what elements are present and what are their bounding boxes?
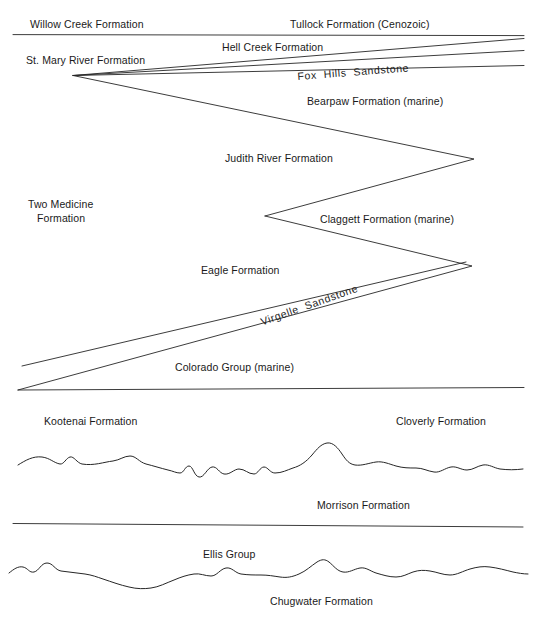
morrison-unconformity-upper bbox=[18, 443, 523, 477]
formation-label-kootenai: Kootenai Formation bbox=[44, 415, 137, 428]
formation-label-two-medicine-1: Two Medicine bbox=[28, 198, 93, 211]
chugwater-unconformity bbox=[9, 560, 528, 589]
formation-label-st-mary-river: St. Mary River Formation bbox=[26, 54, 145, 67]
formation-label-bearpaw: Bearpaw Formation (marine) bbox=[307, 95, 443, 108]
formation-label-eagle: Eagle Formation bbox=[201, 264, 280, 277]
formation-label-cloverly: Cloverly Formation bbox=[396, 415, 486, 428]
virgelle-top-contact bbox=[22, 262, 466, 366]
formation-label-ellis-group: Ellis Group bbox=[203, 548, 255, 561]
contact-lines-layer bbox=[0, 0, 538, 622]
formation-label-chugwater: Chugwater Formation bbox=[270, 595, 373, 608]
formation-label-willow-creek: Willow Creek Formation bbox=[30, 18, 144, 31]
formation-label-morrison: Morrison Formation bbox=[317, 499, 410, 512]
formation-label-two-medicine-2: Formation bbox=[37, 212, 85, 225]
formation-label-claggett: Claggett Formation (marine) bbox=[320, 213, 454, 226]
stratigraphic-cross-section-figure: Willow Creek FormationTullock Formation … bbox=[0, 0, 538, 622]
tullock-base-line bbox=[13, 35, 524, 36]
colorado-group-base bbox=[18, 388, 524, 391]
formation-label-hell-creek: Hell Creek Formation bbox=[222, 41, 323, 54]
ellis-group-top-line bbox=[13, 524, 523, 528]
formation-label-tullock: Tullock Formation (Cenozoic) bbox=[290, 18, 430, 31]
formation-label-colorado-group: Colorado Group (marine) bbox=[175, 361, 294, 374]
formation-label-judith-river: Judith River Formation bbox=[225, 152, 333, 165]
